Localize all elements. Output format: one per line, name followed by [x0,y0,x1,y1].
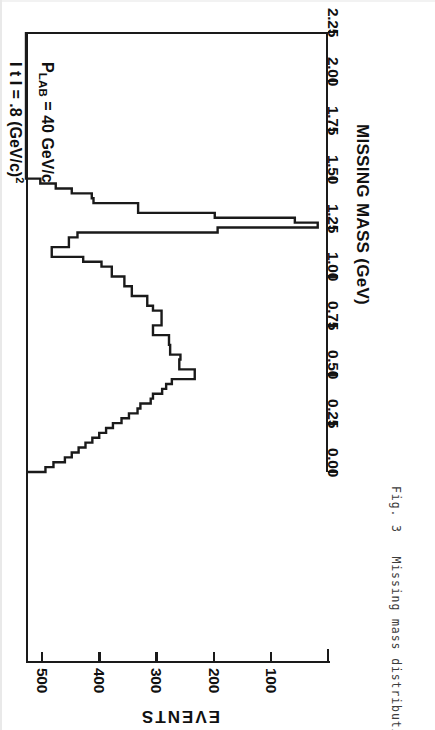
events-tick-label-400: 400 [90,668,108,693]
annotation-lead: P [39,62,56,73]
rotated-plot-canvas [26,32,328,472]
caption-body: Missing mass distribution at t = -.8 (Ge… [389,556,403,730]
mass-tick-label-1.50: 1.50 [324,155,342,184]
annotation-beam-momentum: PLAB = 40 GeV/c [37,62,56,183]
events-tick-label-500: 500 [33,668,51,693]
figure-caption: Fig. 3 Missing mass distribution at t = … [389,486,404,730]
x-axis-title: MISSING MASS (GeV) [352,124,372,305]
caption-figure-number: Fig. 3 [389,486,403,533]
y-axis-title: EVENTS [140,706,220,726]
annotation-superscript: 2 [14,177,26,183]
events-tick-label-100: 100 [262,668,280,693]
events-tick-label-200: 200 [205,668,223,693]
mass-tick-label-2.25: 2.25 [324,8,342,37]
annotation-rest: = .8 (GeV/c) [7,85,24,177]
events-tick-label-300: 300 [147,668,165,693]
events-axis-line [26,661,330,663]
mass-tick-label-0.25: 0.25 [324,399,342,428]
annotation-momentum-transfer: I t I = .8 (GeV/c)2 [6,62,26,183]
mass-tick-label-1.25: 1.25 [324,204,342,233]
annotation-subscript: LAB [37,73,49,97]
annotation-lead: I t I [7,62,24,85]
figure-plot-area [26,32,328,472]
events-axis-zero-stub [327,649,329,663]
mass-tick-label-0.00: 0.00 [324,448,342,477]
annotation-rest: = 40 GeV/c [39,97,56,183]
mass-tick-label-0.75: 0.75 [324,301,342,330]
caption-gap [389,533,403,556]
histogram-trace [26,32,328,472]
plot-annotations: PLAB = 40 GeV/cI t I = .8 (GeV/c)2 [0,62,56,183]
mass-tick-label-1.75: 1.75 [324,106,342,135]
mass-tick-label-2.00: 2.00 [324,57,342,86]
mass-tick-label-0.50: 0.50 [324,350,342,379]
mass-tick-label-1.00: 1.00 [324,252,342,281]
